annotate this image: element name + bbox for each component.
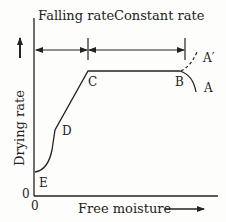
x-origin-label: 0 (31, 199, 39, 213)
point-b-label: B (175, 75, 184, 89)
falling-rate-label: Falling rate (38, 8, 114, 23)
point-d-label: D (62, 124, 72, 138)
dashed-curve-a-prime (181, 52, 197, 71)
point-c-label: C (88, 75, 97, 89)
drying-rate-diagram: Falling rate Constant rate Drying rate F… (0, 0, 226, 222)
x-axis-label: Free moisture (78, 201, 172, 216)
y-axis-label: Drying rate (12, 90, 27, 166)
y-origin-label: 0 (22, 187, 30, 201)
point-e-label: E (39, 176, 48, 190)
point-a-label: A (203, 81, 213, 95)
point-a-prime-label: A′ (202, 51, 215, 65)
drying-curve (35, 71, 196, 172)
constant-rate-label: Constant rate (114, 8, 205, 23)
